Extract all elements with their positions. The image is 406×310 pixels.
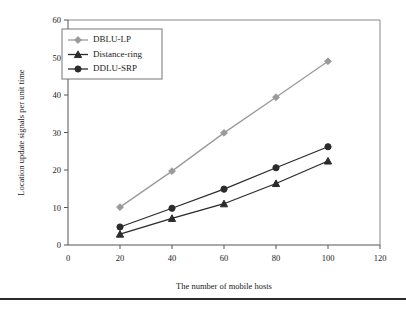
- x-tick-label: 60: [220, 253, 229, 263]
- figure-container: 0102030405060020406080100120 DBLU-LPDist…: [0, 0, 406, 310]
- bottom-divider-rule: [0, 298, 406, 300]
- x-tick-label: 40: [168, 253, 177, 263]
- chart-legend: DBLU-LPDistance-ringDDLU-SRP: [62, 29, 162, 79]
- data-point-marker: [325, 144, 331, 150]
- y-axis-title: Location update signals per unit time: [16, 69, 26, 196]
- y-tick-label: 0: [57, 240, 61, 250]
- data-point-marker: [324, 157, 331, 164]
- data-point-marker: [169, 205, 175, 211]
- data-point-marker: [221, 186, 227, 192]
- legend-label: Distance-ring: [93, 49, 142, 59]
- legend-label: DBLU-LP: [93, 34, 131, 44]
- y-tick-label: 40: [53, 90, 62, 100]
- data-series-group: [116, 58, 331, 237]
- y-tick-label: 20: [53, 165, 62, 175]
- legend-marker-icon: [75, 66, 81, 72]
- series-distance-ring: [116, 157, 331, 237]
- y-tick-label: 10: [53, 203, 62, 213]
- x-tick-label: 100: [322, 253, 335, 263]
- x-tick-label: 0: [66, 253, 70, 263]
- y-tick-label: 50: [53, 53, 62, 63]
- data-point-marker: [117, 224, 123, 230]
- series-line-path: [120, 161, 328, 234]
- axis-titles: The number of mobile hostsLocation updat…: [16, 69, 272, 291]
- data-point-marker: [273, 165, 279, 171]
- y-tick-label: 60: [53, 15, 62, 25]
- x-tick-label: 80: [272, 253, 281, 263]
- x-tick-label: 20: [116, 253, 125, 263]
- line-chart: 0102030405060020406080100120 DBLU-LPDist…: [0, 0, 406, 310]
- legend-label: DDLU-SRP: [93, 63, 137, 73]
- x-axis-title: The number of mobile hosts: [176, 281, 272, 291]
- y-tick-label: 30: [53, 128, 62, 138]
- data-point-marker: [220, 200, 227, 207]
- data-point-marker: [272, 180, 279, 187]
- x-tick-label: 120: [374, 253, 387, 263]
